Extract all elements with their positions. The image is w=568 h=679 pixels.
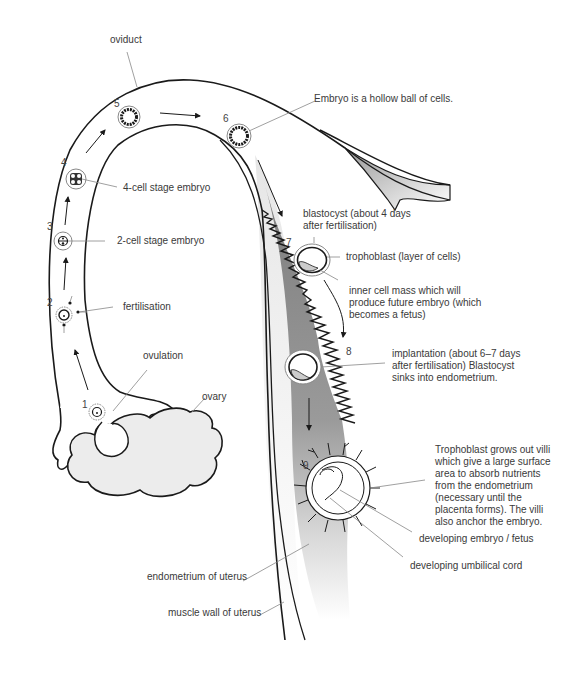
label-hollow-ball: Embryo is a hollow ball of cells. <box>314 93 453 105</box>
label-four-cell: 4-cell stage embryo <box>123 182 210 194</box>
label-trophoblast: trophoblast (layer of cells) <box>346 251 461 263</box>
stage-number-3: 3 <box>47 221 53 232</box>
stage-number-9: 9 <box>303 460 309 471</box>
label-two-cell: 2-cell stage embryo <box>117 235 204 247</box>
stage-1-egg <box>89 404 105 420</box>
uterus-top-cut <box>345 148 450 210</box>
ruptured-follicle <box>95 422 128 456</box>
stage-number-4: 4 <box>61 157 67 168</box>
label-ovulation: ovulation <box>143 350 183 362</box>
label-blastocyst: blastocyst (about 4 days after fertilisa… <box>303 208 433 232</box>
label-muscle-wall: muscle wall of uterus <box>168 607 261 619</box>
stage-7-blastocyst <box>294 244 330 276</box>
label-inner-cell-mass: inner cell mass which will produce futur… <box>349 285 499 321</box>
stage-number-6: 6 <box>223 113 229 124</box>
stage-6-hollow-ball <box>227 124 251 148</box>
label-developing-embryo: developing embryo / fetus <box>419 533 534 545</box>
stage-5-morula <box>118 106 140 128</box>
stage-number-1: 1 <box>82 399 88 410</box>
diagram-canvas: 1 2 3 4 5 6 7 8 9 oviduct Embryo is a ho… <box>0 0 568 679</box>
stage-8-implantation <box>285 350 321 384</box>
stage-number-7: 7 <box>286 237 292 248</box>
fertilisation-diagram <box>0 0 568 679</box>
label-fertilisation: fertilisation <box>123 301 171 313</box>
label-ovary: ovary <box>202 391 226 403</box>
label-implantation: implantation (about 6–7 days after ferti… <box>392 348 527 384</box>
stage-number-2: 2 <box>47 297 53 308</box>
label-oviduct: oviduct <box>110 34 142 46</box>
stage-number-5: 5 <box>114 98 120 109</box>
stage-number-8: 8 <box>346 346 352 357</box>
label-endometrium: endometrium of uterus <box>147 571 247 583</box>
label-villi: Trophoblast grows out villi which give a… <box>435 444 560 528</box>
label-umbilical-cord: developing umbilical cord <box>410 560 522 572</box>
